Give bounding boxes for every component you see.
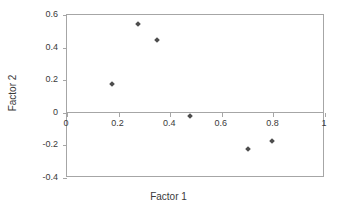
data-point bbox=[269, 138, 275, 144]
x-tick-label: 0 bbox=[51, 119, 81, 128]
zero-baseline bbox=[67, 112, 323, 113]
x-tick-label: 0.8 bbox=[257, 119, 287, 128]
y-tick-label: -0.4 bbox=[18, 173, 58, 182]
y-tick-mark bbox=[63, 48, 67, 49]
y-tick-mark bbox=[63, 178, 67, 179]
data-point bbox=[187, 113, 193, 119]
x-tick-label: 1 bbox=[309, 119, 337, 128]
y-axis-title: Factor 2 bbox=[8, 53, 18, 133]
x-tick-mark bbox=[325, 113, 326, 117]
scatter-chart: 0.60.40.20-0.2-0.4 00.20.40.60.81 Factor… bbox=[0, 0, 337, 214]
y-tick-label: 0 bbox=[18, 108, 58, 117]
data-point bbox=[245, 147, 251, 153]
y-tick-label: 0.2 bbox=[18, 75, 58, 84]
y-tick-label: 0.4 bbox=[18, 43, 58, 52]
x-tick-mark bbox=[119, 113, 120, 117]
x-tick-label: 0.6 bbox=[206, 119, 236, 128]
y-tick-label: 0.6 bbox=[18, 10, 58, 19]
y-tick-mark bbox=[63, 113, 67, 114]
x-tick-label: 0.2 bbox=[103, 119, 133, 128]
data-point bbox=[109, 81, 115, 87]
x-axis-title: Factor 1 bbox=[0, 192, 337, 202]
y-tick-mark bbox=[63, 15, 67, 16]
x-tick-mark bbox=[67, 113, 68, 117]
y-tick-label: -0.2 bbox=[18, 140, 58, 149]
data-point bbox=[154, 37, 160, 43]
y-tick-mark bbox=[63, 145, 67, 146]
y-tick-mark bbox=[63, 80, 67, 81]
x-tick-mark bbox=[222, 113, 223, 117]
x-tick-label: 0.4 bbox=[154, 119, 184, 128]
x-tick-mark bbox=[170, 113, 171, 117]
x-tick-mark bbox=[273, 113, 274, 117]
data-point bbox=[135, 21, 141, 27]
plot-area bbox=[66, 14, 324, 177]
